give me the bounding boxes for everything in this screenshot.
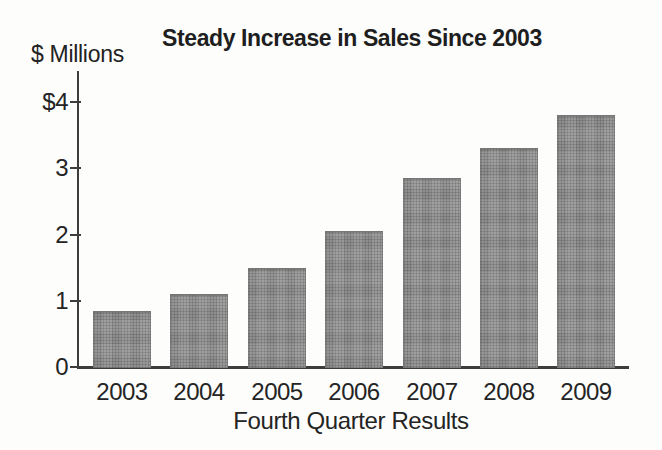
x-tick-label: 2005 — [251, 378, 302, 406]
x-tick-label: 2007 — [406, 378, 457, 406]
chart-title: Steady Increase in Sales Since 2003 — [162, 25, 542, 52]
bar-2003 — [93, 311, 151, 368]
y-tick-label: 0 — [18, 354, 68, 380]
y-axis-tick — [70, 366, 81, 368]
y-tick-label: 1 — [18, 288, 68, 314]
bar-2008 — [480, 148, 538, 368]
x-tick-label: 2003 — [96, 378, 147, 406]
bar-2009 — [557, 115, 615, 368]
bar-chart-figure: Steady Increase in Sales Since 2003 $ Mi… — [0, 0, 662, 450]
bar-2004 — [170, 294, 228, 368]
bar-2005 — [248, 268, 306, 368]
y-tick-label: 2 — [18, 222, 68, 248]
x-tick-label: 2008 — [483, 378, 534, 406]
y-axis-title: $ Millions — [31, 41, 124, 68]
x-tick-label: 2009 — [560, 378, 611, 406]
y-tick-label: $4 — [18, 89, 68, 115]
y-axis-tick — [70, 167, 81, 169]
y-axis-tick — [70, 300, 81, 302]
x-tick-label: 2006 — [328, 378, 379, 406]
x-axis-title: Fourth Quarter Results — [233, 407, 468, 435]
y-axis-line — [77, 71, 79, 368]
y-axis-tick — [70, 101, 81, 103]
y-tick-label: 3 — [18, 155, 68, 181]
bar-2006 — [325, 231, 383, 368]
y-axis-tick — [70, 234, 81, 236]
bar-2007 — [403, 178, 461, 368]
x-tick-label: 2004 — [173, 378, 224, 406]
